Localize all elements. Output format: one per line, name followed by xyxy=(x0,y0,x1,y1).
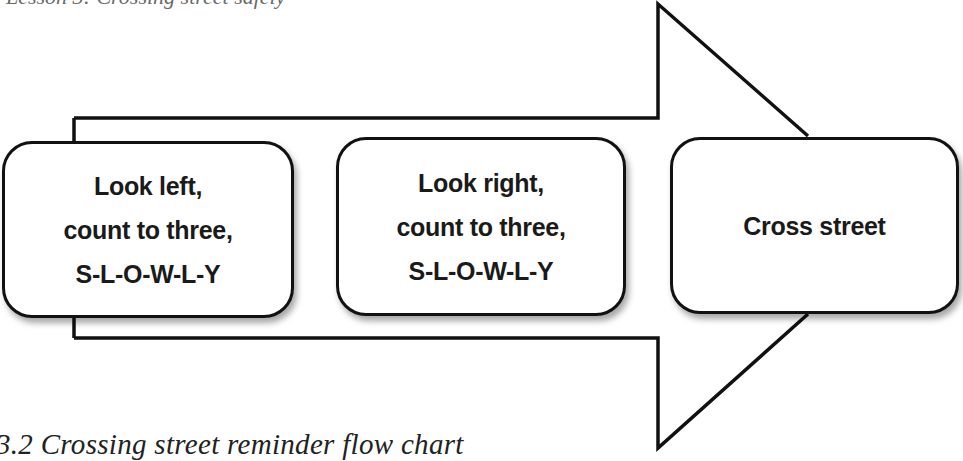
step-2-line-1: Look right, xyxy=(418,161,544,205)
flow-step-cross-street: Cross street xyxy=(670,137,959,314)
flow-step-look-right: Look right, count to three, S-L-O-W-L-Y xyxy=(336,137,626,316)
step-2-line-2: count to three, xyxy=(396,205,565,249)
step-1-line-1: Look left, xyxy=(94,164,202,208)
step-3-line-1: Cross street xyxy=(743,204,885,248)
figure-caption: 3.2 Crossing street reminder flow chart xyxy=(0,428,464,461)
step-2-line-3: S-L-O-W-L-Y xyxy=(409,249,554,293)
step-1-line-3: S-L-O-W-L-Y xyxy=(76,252,221,296)
flow-step-look-left: Look left, count to three, S-L-O-W-L-Y xyxy=(2,141,294,318)
step-1-line-2: count to three, xyxy=(63,208,232,252)
